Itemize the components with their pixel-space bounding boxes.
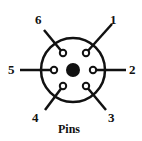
pin-2 <box>90 67 96 73</box>
pin-label: 1 <box>110 12 117 27</box>
pin-label: 3 <box>108 110 115 125</box>
caption: Pins <box>58 122 80 136</box>
pin-label: 2 <box>129 62 136 77</box>
leader-line <box>86 24 112 53</box>
pin-1 <box>83 50 89 56</box>
pin-diagram: 123456 Pins <box>0 0 142 141</box>
pin-5 <box>51 67 57 73</box>
center-key <box>66 63 80 77</box>
connector-diagram: 123456 Pins <box>0 0 142 141</box>
pin-4 <box>60 83 66 89</box>
pin-6 <box>60 50 66 56</box>
pin-label: 4 <box>32 110 39 125</box>
pin-label: 6 <box>35 12 42 27</box>
pin-3 <box>83 83 89 89</box>
pin-label: 5 <box>8 62 15 77</box>
